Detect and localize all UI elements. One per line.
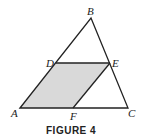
label-f: F <box>69 110 77 122</box>
figure-diagram: B D E A F C FIGURE 4 <box>0 0 141 140</box>
label-e: E <box>111 57 119 69</box>
label-a: A <box>10 107 18 119</box>
label-d: D <box>45 57 54 69</box>
shaded-parallelogram-adef <box>20 63 110 108</box>
label-b: B <box>87 5 94 17</box>
label-c: C <box>128 107 136 119</box>
figure-caption: FIGURE 4 <box>46 125 96 136</box>
